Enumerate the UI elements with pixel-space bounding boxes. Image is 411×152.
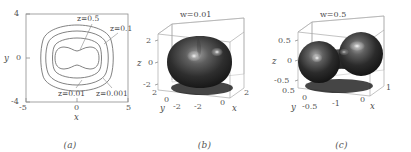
panel-b-ztick-2: 2 <box>146 36 151 45</box>
panel-c-ztick-neg05: -0.5 <box>274 76 289 85</box>
contour-label-0.001: z=0.001 <box>96 89 128 98</box>
panel-b-ztick-0: 0 <box>148 58 153 67</box>
ztick-b-neg2 <box>155 84 158 85</box>
panel-c-ztick-05: 0.5 <box>278 36 291 45</box>
panel-c-isosurface: w=0.5 <box>272 0 411 152</box>
panel-c-xtick-1: 1 <box>386 83 391 92</box>
panel-c-ytick-neg05: -0.5 <box>302 102 317 111</box>
specular-highlight-left-c <box>312 54 323 63</box>
contour-label-0.1: z=0.1 <box>110 24 132 33</box>
panel-c-ztick-0: 0 <box>287 56 292 65</box>
x-tick-label-neg5: -5 <box>19 103 27 112</box>
panel-b-xtick-neg2: -2 <box>194 102 202 111</box>
panel-caption-c: (c) <box>272 140 411 150</box>
x-tick-label-0: 0 <box>74 103 79 112</box>
ztick-c-neg05 <box>295 80 298 81</box>
y-tick-label-4: 4 <box>14 9 19 18</box>
y-axis-label: y <box>4 53 9 63</box>
leader-line-0.001 <box>103 78 112 88</box>
ztick-c-0 <box>295 60 298 61</box>
panel-c-ytick-05: 0.5 <box>282 86 295 95</box>
panel-b-ytick-2: 2 <box>152 88 157 97</box>
ztick-b-2 <box>155 40 158 41</box>
panel-c-x-axis-label: x <box>370 101 375 111</box>
y-tick-label-neg4: -4 <box>11 97 19 106</box>
panel-b-ztick-neg2: -2 <box>143 80 151 89</box>
panel-caption-a: (a) <box>0 140 140 150</box>
panel-c-z-axis-label: z <box>272 56 276 66</box>
panel-b-ytick-neg2: -2 <box>173 102 181 111</box>
contour-level-0.1 <box>53 38 102 78</box>
panel-c-y-axis-label: y <box>291 102 296 112</box>
panel-b-z-axis-label: z <box>137 58 141 68</box>
panel-c-xtick-0: 0 <box>360 95 365 104</box>
contour-level-0.5 <box>55 47 99 69</box>
leader-line-0.1 <box>104 33 118 44</box>
ztick-c-05 <box>295 40 298 41</box>
figure-three-panel: z=0.5 z=0.1 z=0.01 z=0.001 4 0 -4 -5 0 5… <box>0 0 411 152</box>
specular-highlight-right-b <box>211 48 223 57</box>
x-tick-label-5: 5 <box>126 103 131 112</box>
specular-highlight-right-c <box>349 41 365 51</box>
contour-label-0.5: z=0.5 <box>77 14 99 23</box>
panel-caption-b: (b) <box>136 140 273 150</box>
specular-highlight-neck-c <box>339 49 349 56</box>
leader-line-0.01 <box>76 80 82 88</box>
panel-b-xtick-2: 2 <box>244 88 249 97</box>
panel-b-xtick-0: 0 <box>220 98 225 107</box>
contour-level-0.001 <box>41 25 114 91</box>
panel-c-xtick-neg1: -1 <box>332 99 340 108</box>
panel-b-x-axis-label: x <box>232 103 237 113</box>
specular-highlight-left-b <box>187 51 201 62</box>
panel-b-isosurface: w=0.01 <box>136 0 273 152</box>
panel-b-y-axis-label: y <box>160 103 165 113</box>
ztick-b-0 <box>155 62 158 63</box>
contour-label-0.01: z=0.01 <box>58 89 85 98</box>
leader-line-0.5 <box>80 24 92 50</box>
x-axis-label: x <box>74 112 79 122</box>
panel-c-title: w=0.5 <box>320 10 346 19</box>
panel-b-title: w=0.01 <box>180 10 211 19</box>
panel-a-contour-plot: z=0.5 z=0.1 z=0.01 z=0.001 4 0 -4 -5 0 5… <box>0 0 140 152</box>
panel-c-ytick-0: 0 <box>302 93 307 102</box>
y-tick-label-0: 0 <box>16 53 21 62</box>
